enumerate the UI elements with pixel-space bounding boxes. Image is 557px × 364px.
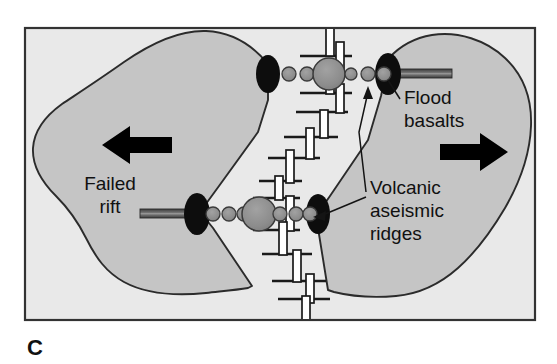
label-volcanic-line-2: ridges <box>370 223 422 244</box>
ridge-axis <box>306 128 314 159</box>
ridge-axis <box>302 296 310 320</box>
ridge-axis <box>326 28 334 56</box>
volcano <box>282 67 296 81</box>
volcano <box>345 68 357 80</box>
volcano <box>222 207 236 221</box>
volcano <box>206 207 220 221</box>
ridge-axis <box>279 222 287 255</box>
ridge-axis <box>286 150 294 183</box>
hotspot-lens <box>256 55 280 93</box>
volcano <box>273 207 287 221</box>
label-failed-rift-line-0: Failed <box>84 173 136 194</box>
label-volcanic-line-1: aseismic <box>370 200 444 221</box>
figure-panel-c: Flood basalts Volcanic aseismic ridges F… <box>0 0 557 364</box>
volcano <box>300 67 314 81</box>
ridge-axis <box>293 250 301 282</box>
ridge-axis <box>320 110 328 138</box>
main-volcano <box>313 58 345 90</box>
volcano <box>377 67 391 81</box>
volcano <box>361 67 375 81</box>
panel-letter: C <box>27 335 43 360</box>
flood-basalt-rift-bar <box>398 69 452 78</box>
label-volcanic-line-0: Volcanic <box>370 177 441 198</box>
label-flood-basalts-line-0: Flood <box>404 87 452 108</box>
main-volcano <box>242 197 276 231</box>
volcano <box>289 207 303 221</box>
label-failed-rift-line-1: rift <box>99 196 121 217</box>
plate-tectonics-diagram: Flood basalts Volcanic aseismic ridges F… <box>0 0 557 364</box>
ridge-axis <box>275 176 283 200</box>
volcano <box>303 207 317 221</box>
label-flood-basalts-line-1: basalts <box>404 110 464 131</box>
